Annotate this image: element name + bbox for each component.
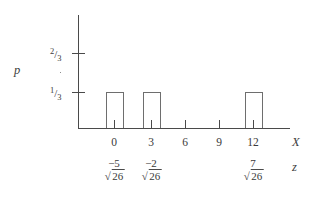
z-label-12-denominator: √26 [243, 170, 264, 183]
y-tick-two-thirds-denominator: 3 [57, 53, 61, 63]
z-label-at-x-3: −2 √26 [141, 158, 162, 183]
z-label-3-denominator: √26 [141, 170, 162, 183]
z-axis-label: z [292, 161, 297, 174]
z-label-12-radical-sign: √ [244, 170, 250, 182]
x-tick-label-9: 9 [216, 137, 222, 149]
x-tick-0 [114, 120, 115, 128]
y-tick-one-third-denominator: 3 [57, 92, 61, 102]
z-label-0-radical-sign: √ [105, 170, 111, 182]
z-label-12-radicand: 26 [250, 169, 263, 182]
x-tick-label-0: 0 [111, 137, 117, 149]
x-axis-label-X: X [292, 136, 300, 149]
probability-mass-function-figure: 2/3 1/3 p 0 3 6 9 12 X −5 √26 −2 √26 7 [0, 0, 317, 203]
z-label-at-x-0: −5 √26 [104, 158, 125, 183]
x-tick-6 [185, 120, 186, 128]
x-tick-label-12: 12 [247, 137, 259, 149]
z-label-0-radicand: 26 [111, 169, 124, 182]
x-tick-9 [219, 120, 220, 128]
y-axis-label-p: p [14, 64, 20, 77]
x-tick-label-6: 6 [182, 137, 188, 149]
y-tick-one-third [72, 92, 85, 93]
y-axis-line [78, 15, 79, 129]
y-tick-two-thirds [72, 53, 85, 54]
y-tick-label-one-third: 1/3 [50, 86, 62, 102]
z-label-0-denominator: √26 [104, 170, 125, 183]
stray-dot-mark [60, 72, 61, 73]
z-label-3-radicand: 26 [148, 169, 161, 182]
x-tick-3 [151, 120, 152, 128]
z-label-at-x-12: 7 √26 [243, 158, 264, 183]
x-tick-12 [253, 120, 254, 128]
y-tick-label-two-thirds: 2/3 [50, 47, 62, 63]
z-label-3-radical-sign: √ [142, 170, 148, 182]
x-tick-label-3: 3 [148, 137, 154, 149]
